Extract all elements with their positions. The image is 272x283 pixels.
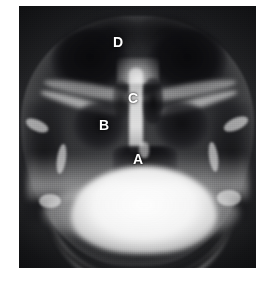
vignette-layer: [19, 6, 256, 268]
page-root: D C B A: [0, 0, 272, 283]
radiograph-image: D C B A: [19, 6, 256, 268]
annotation-label-d: D: [113, 35, 123, 49]
annotation-label-b: B: [99, 118, 109, 132]
annotation-label-a: A: [133, 152, 143, 166]
annotation-label-c: C: [128, 91, 138, 105]
